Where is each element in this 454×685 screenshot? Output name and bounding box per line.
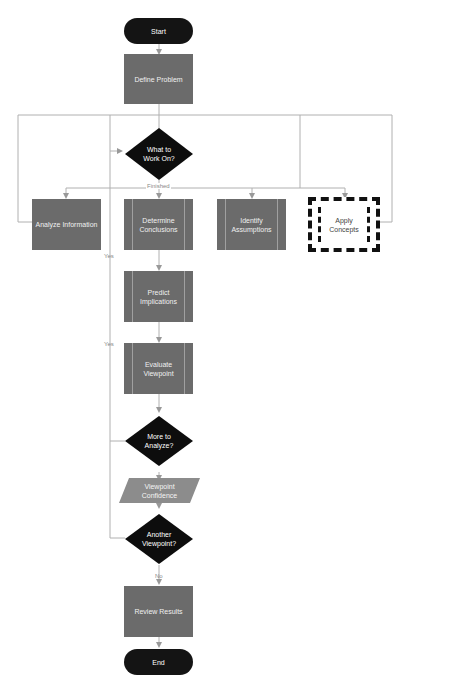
review-results-label: Review Results bbox=[134, 607, 182, 616]
yes-label-2: Yes bbox=[104, 341, 114, 347]
identify-assumptions-label: Identify Assumptions bbox=[229, 216, 274, 234]
finished-label: Finished bbox=[146, 183, 171, 189]
more-to-analyze-label: More to Analyze? bbox=[141, 432, 177, 450]
apply-concepts-highlighted: Apply Concepts bbox=[308, 197, 380, 252]
predict-implications-label: Predict Implications bbox=[136, 288, 181, 306]
another-viewpoint-label: Another Viewpoint? bbox=[139, 530, 179, 548]
edge-apply-loop bbox=[380, 115, 392, 222]
analyze-information-label: Analyze Information bbox=[36, 220, 98, 229]
identify-assumptions-subprocess: Identify Assumptions bbox=[217, 199, 286, 250]
edge-analyze-loop bbox=[18, 115, 33, 222]
viewpoint-confidence-data: Viewpoint Confidence bbox=[119, 478, 200, 503]
determine-conclusions-subprocess: Determine Conclusions bbox=[124, 199, 193, 250]
review-results-process: Review Results bbox=[124, 586, 193, 637]
another-viewpoint-decision: Another Viewpoint? bbox=[125, 514, 193, 564]
no-label: No bbox=[155, 573, 163, 579]
predict-implications-subprocess: Predict Implications bbox=[124, 271, 193, 322]
what-to-work-on-decision: What to Work On? bbox=[125, 128, 193, 180]
viewpoint-confidence-label: Viewpoint Confidence bbox=[137, 482, 182, 500]
connectors bbox=[0, 0, 454, 685]
more-to-analyze-decision: More to Analyze? bbox=[125, 416, 193, 466]
evaluate-viewpoint-label: Evaluate Viewpoint bbox=[136, 360, 181, 378]
what-to-work-on-label: What to Work On? bbox=[139, 145, 179, 163]
define-problem-process: Define Problem bbox=[124, 54, 193, 104]
evaluate-viewpoint-subprocess: Evaluate Viewpoint bbox=[124, 343, 193, 394]
analyze-information-process: Analyze Information bbox=[32, 199, 101, 250]
define-problem-label: Define Problem bbox=[134, 75, 182, 84]
end-terminal: End bbox=[124, 649, 193, 675]
determine-conclusions-label: Determine Conclusions bbox=[136, 216, 181, 234]
end-label: End bbox=[152, 658, 164, 667]
start-terminal: Start bbox=[124, 18, 193, 44]
start-label: Start bbox=[151, 27, 166, 36]
yes-label-1: Yes bbox=[104, 253, 114, 259]
